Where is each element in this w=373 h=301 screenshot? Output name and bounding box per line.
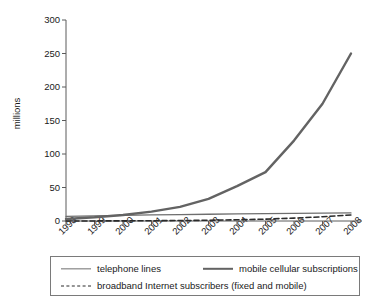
legend-item-telephone-lines: telephone lines — [61, 263, 161, 274]
chart-container: millions 050100150200250300 199819992000… — [0, 0, 373, 301]
legend-item-mobile-cellular: mobile cellular subscriptions — [203, 263, 358, 274]
data-series-group — [66, 54, 351, 222]
y-axis-ticks — [62, 20, 66, 221]
series-line-mobile-cellular-subscriptions — [66, 54, 351, 219]
legend-item-broadband: broadband Internet subscribers (fixed an… — [61, 280, 307, 291]
legend-label-mobile: mobile cellular subscriptions — [239, 263, 358, 274]
legend-label-telephone: telephone lines — [97, 263, 161, 274]
chart-legend: telephone lines mobile cellular subscrip… — [50, 256, 360, 296]
legend-line-icon-broadband — [61, 282, 91, 290]
axes — [62, 20, 362, 225]
legend-label-broadband: broadband Internet subscribers (fixed an… — [97, 280, 307, 291]
legend-line-icon-mobile — [203, 265, 233, 273]
legend-line-icon-telephone — [61, 265, 91, 273]
